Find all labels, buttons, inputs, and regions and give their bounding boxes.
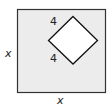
label-inner-bottom: 4 <box>50 52 57 65</box>
label-bottom-x: x <box>56 94 64 107</box>
label-left-x: x <box>4 47 12 60</box>
diagram-canvas: 4 4 x x <box>0 0 109 111</box>
label-inner-top: 4 <box>50 15 57 28</box>
